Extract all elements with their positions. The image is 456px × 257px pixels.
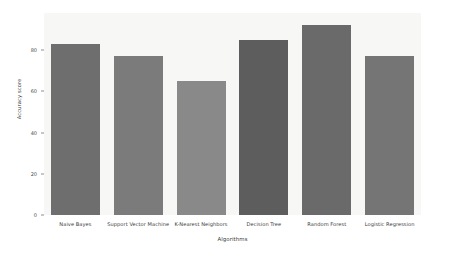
y-axis-tick-label: 60 <box>7 88 37 94</box>
x-axis-tick-label: Random Forest <box>307 221 346 227</box>
y-axis-tick-label: 80 <box>7 47 37 53</box>
x-axis-tick-label: K-Nearest Neighbors <box>175 221 228 227</box>
bar <box>302 25 351 215</box>
y-axis-tick-label: 20 <box>7 171 37 177</box>
bar <box>177 81 226 215</box>
bar-chart-figure: Accuracy score Algorithms 020406080 Naiv… <box>0 0 456 257</box>
bar-series <box>44 13 421 215</box>
x-axis-tick-label: Decision Tree <box>247 221 282 227</box>
y-axis-tick-label: 0 <box>7 212 37 218</box>
x-axis-tick-label: Naive Bayes <box>59 221 91 227</box>
bar <box>239 40 288 215</box>
x-axis-tick-label: Logistic Regression <box>365 221 415 227</box>
x-axis-label: Algorithms <box>44 236 421 242</box>
bar <box>114 56 163 215</box>
y-axis-label: Accuracy score <box>16 44 22 154</box>
x-axis-tick-label: Support Vector Machine <box>107 221 169 227</box>
bar <box>51 44 100 215</box>
bar <box>365 56 414 215</box>
y-axis-tick-label: 40 <box>7 130 37 136</box>
